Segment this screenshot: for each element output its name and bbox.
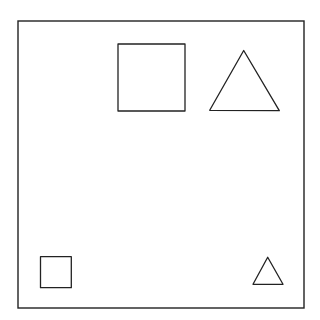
- small-triangle: [253, 257, 283, 284]
- diagram-canvas: [0, 0, 320, 320]
- small-square: [41, 257, 72, 288]
- outer-frame: [18, 21, 304, 308]
- large-square: [118, 44, 185, 111]
- large-triangle: [210, 51, 280, 111]
